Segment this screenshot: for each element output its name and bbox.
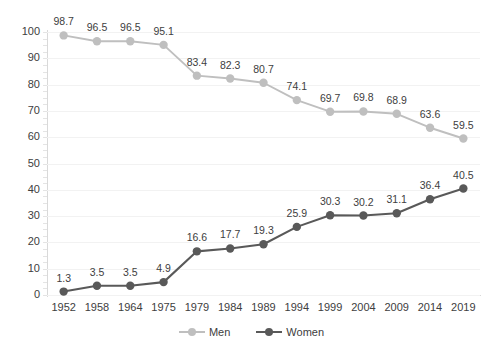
x-axis-tick-label: 2019: [433, 301, 493, 313]
y-axis-tick-label: 70: [8, 105, 40, 116]
data-point-men[interactable]: [259, 79, 267, 87]
data-label-women: 4.9: [142, 262, 186, 274]
legend-label-women: Women: [286, 326, 324, 338]
chart-legend: Men Women: [0, 326, 503, 338]
data-point-women[interactable]: [59, 287, 67, 295]
data-point-women[interactable]: [226, 244, 234, 252]
y-axis-minor-tick: [43, 295, 47, 296]
data-label-women: 40.5: [441, 169, 485, 181]
data-point-men[interactable]: [293, 96, 301, 104]
data-point-men[interactable]: [326, 107, 334, 115]
data-point-women[interactable]: [326, 211, 334, 219]
y-axis-tick-label: 50: [8, 158, 40, 169]
data-label-women: 31.1: [375, 193, 419, 205]
y-axis-tick-label: 90: [8, 52, 40, 63]
data-point-men[interactable]: [59, 31, 67, 39]
data-point-women[interactable]: [159, 278, 167, 286]
data-point-men[interactable]: [159, 41, 167, 49]
data-point-men[interactable]: [426, 124, 434, 132]
data-label-women: 25.9: [275, 207, 319, 219]
data-label-men: 95.1: [142, 25, 186, 37]
line-chart: 0102030405060708090100 19521958196419751…: [0, 0, 503, 349]
y-axis-tick-label: 20: [8, 236, 40, 247]
data-label-women: 19.3: [242, 224, 286, 236]
y-axis-tick-label: 40: [8, 184, 40, 195]
y-axis-tick-label: 80: [8, 79, 40, 90]
data-point-men[interactable]: [93, 37, 101, 45]
data-label-men: 68.9: [375, 94, 419, 106]
data-point-women[interactable]: [193, 247, 201, 255]
y-axis-tick-label: 0: [8, 289, 40, 300]
data-label-men: 80.7: [242, 63, 286, 75]
data-label-men: 74.1: [275, 80, 319, 92]
data-point-women[interactable]: [426, 195, 434, 203]
y-axis-tick-label: 60: [8, 131, 40, 142]
data-point-women[interactable]: [93, 282, 101, 290]
data-point-women[interactable]: [359, 211, 367, 219]
legend-item-men[interactable]: Men: [179, 326, 230, 338]
data-point-men[interactable]: [126, 37, 134, 45]
y-axis-tick-label: 10: [8, 263, 40, 274]
data-point-women[interactable]: [259, 240, 267, 248]
gridline: [47, 295, 480, 296]
data-point-men[interactable]: [459, 134, 467, 142]
data-point-men[interactable]: [359, 107, 367, 115]
legend-item-women[interactable]: Women: [256, 326, 324, 338]
legend-marker-men-icon: [179, 327, 205, 337]
data-point-women[interactable]: [393, 209, 401, 217]
data-point-men[interactable]: [393, 110, 401, 118]
data-point-women[interactable]: [293, 223, 301, 231]
data-point-women[interactable]: [459, 184, 467, 192]
y-axis-tick-label: 100: [8, 26, 40, 37]
legend-label-men: Men: [209, 326, 230, 338]
data-point-men[interactable]: [193, 71, 201, 79]
data-point-women[interactable]: [126, 282, 134, 290]
data-label-women: 36.4: [408, 179, 452, 191]
data-point-men[interactable]: [226, 74, 234, 82]
data-label-men: 59.5: [441, 119, 485, 131]
legend-marker-women-icon: [256, 327, 282, 337]
series-line-men: [64, 35, 464, 138]
y-axis-tick-label: 30: [8, 210, 40, 221]
